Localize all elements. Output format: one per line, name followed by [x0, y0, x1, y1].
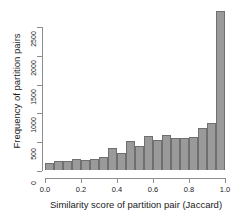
- plot-area: [45, 10, 225, 170]
- y-axis-tick-label: 2500: [30, 27, 38, 51]
- histogram-bar: [72, 159, 81, 170]
- histogram-bar: [153, 140, 162, 170]
- histogram-bar: [54, 161, 63, 170]
- y-axis-tick-label: 500: [30, 142, 38, 166]
- x-axis-tick: [225, 178, 226, 183]
- histogram-chart: Frequency of partition pairs 05001000150…: [0, 0, 242, 220]
- histogram-bar: [144, 136, 153, 170]
- histogram-bar: [162, 135, 171, 170]
- x-axis-tick: [189, 178, 190, 183]
- x-axis-line: [45, 178, 225, 179]
- x-axis-tick-label: 0.6: [143, 185, 163, 194]
- histogram-bar: [207, 123, 216, 170]
- x-axis-tick: [45, 178, 46, 183]
- histogram-bar: [180, 138, 189, 170]
- histogram-bar: [135, 146, 144, 170]
- histogram-bar: [90, 159, 99, 170]
- histogram-bar: [117, 153, 126, 170]
- histogram-bar: [189, 137, 198, 170]
- x-axis-tick-label: 0.0: [35, 185, 55, 194]
- x-axis-tick-label: 0.4: [107, 185, 127, 194]
- histogram-bar: [99, 157, 108, 170]
- histogram-bar: [45, 163, 54, 170]
- y-axis-tick-label: 1500: [30, 85, 38, 109]
- y-axis-tick-label: 2000: [30, 56, 38, 80]
- x-axis-tick: [153, 178, 154, 183]
- histogram-bar: [216, 11, 225, 170]
- y-axis-title: Frequency of partition pairs: [10, 6, 24, 176]
- y-axis-tick-label: 1000: [30, 113, 38, 137]
- x-axis-tick: [117, 178, 118, 183]
- x-axis-title: Similarity score of partition pair (Jacc…: [36, 199, 236, 210]
- histogram-bar: [108, 148, 117, 170]
- histogram-bar: [171, 138, 180, 170]
- histogram-bar: [198, 128, 207, 170]
- bar-series: [45, 10, 225, 170]
- x-axis-tick-label: 0.8: [179, 185, 199, 194]
- x-axis-tick-label: 0.2: [71, 185, 91, 194]
- histogram-bar: [126, 141, 135, 170]
- x-axis-tick-label: 1.0: [215, 185, 235, 194]
- histogram-bar: [81, 160, 90, 170]
- x-axis-tick: [81, 178, 82, 183]
- y-axis-line: [42, 27, 43, 171]
- histogram-bar: [63, 161, 72, 170]
